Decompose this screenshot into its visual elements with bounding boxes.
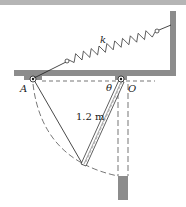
bar-hatching (84, 82, 121, 164)
spring-rod-right (159, 25, 171, 30)
pin-a-center (32, 78, 34, 80)
mechanism-diagram: k A O θ 1.2 m (0, 0, 186, 207)
pivot-o-label: O (128, 83, 136, 94)
vertical-wall (170, 11, 176, 76)
spring-constant-label: k (100, 34, 106, 45)
pin-o-center (120, 78, 122, 80)
cable-a (34, 80, 83, 165)
spring-hook-left (65, 59, 69, 63)
pivot-a-label: A (19, 83, 27, 94)
spring-hook-right (155, 29, 159, 33)
swing-arc (33, 84, 118, 176)
spring-coil (69, 31, 155, 63)
top-border-band (0, 0, 186, 5)
bar-length-label: 1.2 m (76, 111, 105, 122)
counterweight-block (118, 176, 128, 200)
angle-theta-label: θ (106, 82, 112, 93)
